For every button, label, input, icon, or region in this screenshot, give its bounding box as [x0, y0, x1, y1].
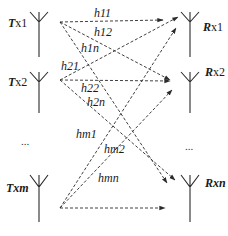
rx2-antenna-icon: [181, 72, 199, 113]
label-hm2: hm2: [104, 142, 125, 156]
label-hmn: hmn: [98, 171, 119, 185]
rx1-antenna-icon: [181, 12, 199, 57]
channel-paths: [60, 17, 178, 208]
label-h21: h21: [61, 59, 79, 73]
tx1-antenna-icon: [30, 12, 48, 57]
tx1-label: Tx1: [8, 16, 27, 30]
tx-ellipsis: ...: [21, 135, 30, 147]
label-h11: h11: [94, 6, 111, 20]
rx1-label: Rx1: [202, 20, 223, 34]
tx2-antenna-icon: [30, 72, 48, 113]
label-hm1: hm1: [76, 127, 97, 141]
rxn-antenna-icon: [181, 175, 199, 222]
label-h22: h22: [81, 81, 99, 95]
txm-antenna-icon: [30, 175, 48, 222]
label-h12: h12: [94, 25, 112, 39]
channel-h22: [60, 80, 170, 81]
rx2-label: Rx2: [204, 65, 225, 79]
rxn-label: Rxn: [204, 176, 226, 190]
mimo-channel-diagram: Tx1 Tx2 Txm Rx1 Rx2 Rxn ... ... h11 h12 …: [0, 0, 228, 236]
label-h1n: h1n: [81, 41, 99, 55]
channel-h11: [60, 20, 163, 22]
label-h2n: h2n: [87, 95, 105, 109]
tx2-label: Tx2: [8, 75, 27, 89]
rx-ellipsis: ...: [185, 140, 194, 152]
txm-label: Txm: [6, 181, 29, 195]
